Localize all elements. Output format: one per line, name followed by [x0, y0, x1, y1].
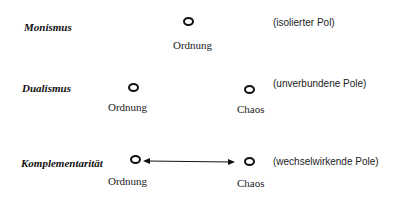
concept-dualismus: Dualismus — [22, 82, 71, 94]
concept-monismus: Monismus — [24, 21, 72, 33]
pole-label-chaos: Chaos — [237, 177, 265, 189]
concept-komplementaritaet: Komplementarität — [21, 157, 103, 169]
pole-label-ordnung: Ordnung — [108, 175, 147, 187]
pole-label-ordnung: Ordnung — [173, 39, 212, 51]
pole-circle-icon — [130, 155, 141, 164]
pole-circle-icon — [244, 85, 255, 94]
pole-circle-icon — [128, 83, 139, 92]
bidirectional-arrow-icon — [143, 157, 235, 167]
pole-circle-icon — [244, 157, 255, 166]
pole-label-ordnung: Ordnung — [108, 101, 147, 113]
description-monismus: (isolierter Pol) — [273, 17, 335, 28]
description-komplementaritaet: (wechselwirkende Pole) — [273, 156, 379, 167]
description-dualismus: (unverbundene Pole) — [273, 78, 366, 89]
pole-circle-icon — [183, 17, 194, 26]
pole-label-chaos: Chaos — [237, 103, 265, 115]
